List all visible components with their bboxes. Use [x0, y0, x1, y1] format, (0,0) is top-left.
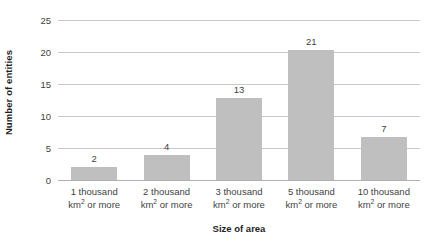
x-axis-title: Size of area	[58, 223, 420, 234]
x-axis-tick-label: 5 thousandkm2 or more	[275, 186, 347, 211]
bar-chart: Number of entities 0510152025 2413217 1 …	[0, 0, 438, 244]
bar-value-label: 21	[306, 36, 317, 47]
bar[interactable]	[361, 137, 407, 180]
y-axis-tick-label: 25	[40, 15, 51, 26]
bar-group: 7	[348, 20, 420, 180]
y-axis-tick-label: 0	[46, 175, 51, 186]
x-axis-tick-label: 1 thousandkm2 or more	[58, 186, 130, 211]
bar[interactable]	[216, 98, 262, 180]
bar-value-label: 13	[234, 84, 245, 95]
y-axis-title: Number of entities	[0, 0, 18, 185]
bar-group: 21	[275, 20, 347, 180]
x-axis-tick-label: 3 thousandkm2 or more	[203, 186, 275, 211]
x-axis-tick-label: 2 thousandkm2 or more	[130, 186, 202, 211]
y-axis-tick-label: 15	[40, 79, 51, 90]
bar-group: 2	[58, 20, 130, 180]
y-axis-tick-label: 20	[40, 47, 51, 58]
y-axis-tick-label: 10	[40, 111, 51, 122]
bar[interactable]	[144, 155, 190, 180]
bar-group: 13	[203, 20, 275, 180]
bar[interactable]	[288, 50, 334, 180]
bar-value-label: 2	[92, 153, 97, 164]
plot-area: 0510152025 2413217	[58, 20, 420, 180]
x-axis-tick-label: 10 thousandkm2 or more	[348, 186, 420, 211]
bar-group: 4	[130, 20, 202, 180]
y-axis-tick-label: 5	[46, 143, 51, 154]
gridline: 0	[58, 180, 420, 181]
bar-value-label: 4	[164, 141, 169, 152]
bars-layer: 2413217	[58, 20, 420, 180]
bar[interactable]	[71, 167, 117, 180]
bar-value-label: 7	[381, 123, 386, 134]
x-axis-tick-labels: 1 thousandkm2 or more2 thousandkm2 or mo…	[58, 186, 420, 218]
y-axis-title-label: Number of entities	[4, 50, 15, 135]
